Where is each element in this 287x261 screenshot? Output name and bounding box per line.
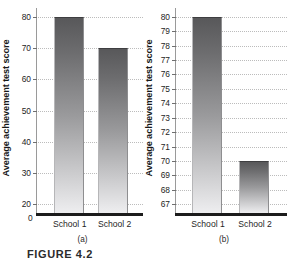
x-axis-baseline-a <box>36 213 143 216</box>
bar-school-2 <box>98 48 128 213</box>
y-axis-tick-label: 77 <box>161 56 170 64</box>
y-axis-tick <box>33 79 37 80</box>
y-axis-tick <box>172 31 176 32</box>
y-axis-tick <box>172 132 176 133</box>
x-axis-label-school-2: School 2 <box>238 220 271 229</box>
y-axis-tick-label: 50 <box>22 106 31 114</box>
y-axis-spine-b <box>175 8 176 213</box>
y-axis-tick <box>172 190 176 191</box>
y-axis-tick <box>172 161 176 162</box>
x-axis-label-school-1: School 1 <box>53 220 86 229</box>
x-axis-baseline-b <box>175 213 287 216</box>
y-axis-tick-label: 67 <box>161 200 170 208</box>
y-axis-tick <box>172 103 176 104</box>
y-axis-tick-label: 70 <box>161 157 170 165</box>
y-axis-tick-label: 71 <box>161 142 170 150</box>
figure-container: Average achievement test score 203040506… <box>0 0 287 261</box>
y-axis-tick-label: 73 <box>161 114 170 122</box>
y-axis-tick-label: 75 <box>161 85 170 93</box>
y-axis-tick-label: 69 <box>161 171 170 179</box>
y-axis-title-b: Average achievement test score <box>142 0 156 215</box>
y-axis-tick <box>33 173 37 174</box>
y-axis-tick <box>33 17 37 18</box>
bar-school-1 <box>192 17 222 213</box>
y-axis-tick-label: 80 <box>22 13 31 21</box>
bar-school-2 <box>239 161 269 213</box>
y-axis-tick <box>172 118 176 119</box>
y-axis-tick <box>172 204 176 205</box>
x-axis-label-school-2: School 2 <box>98 220 131 229</box>
y-axis-tick-label: 30 <box>22 168 31 176</box>
y-axis-tick-label: 60 <box>22 75 31 83</box>
y-axis-tick <box>33 48 37 49</box>
y-axis-tick <box>172 147 176 148</box>
panel-caption-a: (a) <box>0 236 143 244</box>
y-axis-tick-label: 40 <box>22 137 31 145</box>
y-axis-tick-label: 74 <box>161 99 170 107</box>
y-axis-tick <box>33 142 37 143</box>
y-axis-tick-label: 68 <box>161 186 170 194</box>
y-axis-tick-label: 72 <box>161 128 170 136</box>
y-axis-tick <box>172 46 176 47</box>
y-axis-tick <box>172 89 176 90</box>
axis-break-zero-label-a: 0 <box>28 214 33 222</box>
x-axis-labels-b: School 1School 2 <box>175 220 287 234</box>
plot-area-a: 20304050607080 <box>36 8 141 213</box>
y-axis-tick-label: 78 <box>161 41 170 49</box>
y-axis-tick-label: 79 <box>161 27 170 35</box>
bar-school-1 <box>54 17 84 213</box>
y-axis-tick-label: 70 <box>22 44 31 52</box>
figure-number-label: FIGURE 4.2 <box>27 249 93 260</box>
y-axis-title-a: Average achievement test score <box>0 0 13 215</box>
y-axis-tick <box>172 175 176 176</box>
x-axis-labels-a: School 1School 2 <box>36 220 143 234</box>
y-axis-tick <box>33 111 37 112</box>
y-axis-tick <box>33 204 37 205</box>
y-axis-tick-label: 20 <box>22 199 31 207</box>
y-axis-tick <box>172 17 176 18</box>
y-axis-tick <box>172 74 176 75</box>
gridline <box>36 17 143 18</box>
y-axis-tick-label: 80 <box>161 12 170 20</box>
plot-area-b: 6768697071727374757677787980 <box>175 8 285 213</box>
y-axis-tick-label: 76 <box>161 70 170 78</box>
panel-caption-b: (b) <box>143 236 287 244</box>
y-axis-tick <box>172 60 176 61</box>
chart-panel-b: Average achievement test score 676869707… <box>143 0 287 252</box>
chart-panel-a: Average achievement test score 203040506… <box>0 0 143 252</box>
x-axis-label-school-1: School 1 <box>191 220 224 229</box>
